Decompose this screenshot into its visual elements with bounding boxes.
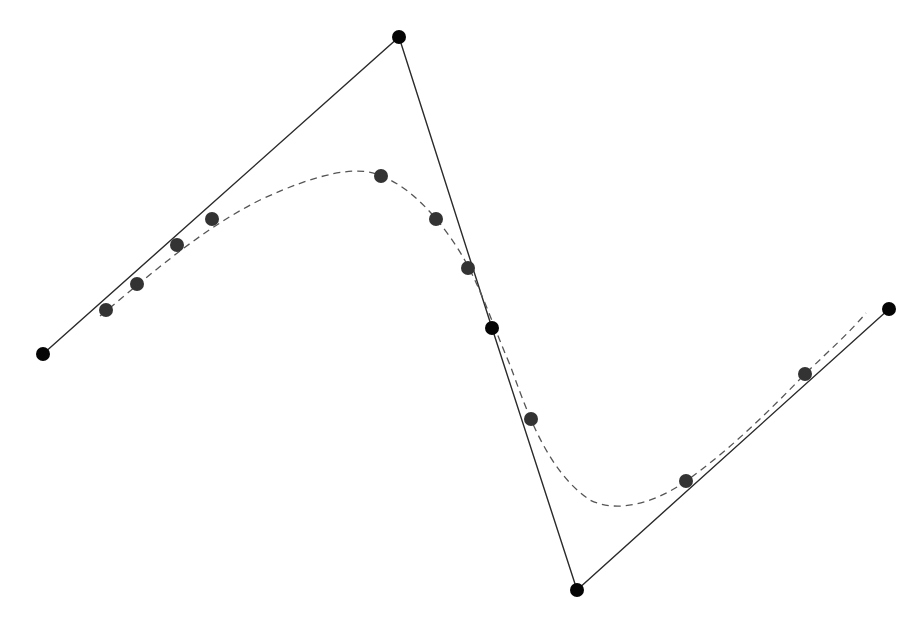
sample-point bbox=[798, 367, 812, 381]
sample-point bbox=[170, 238, 184, 252]
control-point bbox=[392, 30, 406, 44]
control-point bbox=[485, 321, 499, 335]
sample-point bbox=[461, 261, 475, 275]
control-point bbox=[570, 583, 584, 597]
control-points bbox=[36, 30, 896, 597]
control-point bbox=[36, 347, 50, 361]
control-point bbox=[882, 302, 896, 316]
sample-point bbox=[205, 212, 219, 226]
control-polygon bbox=[43, 37, 889, 590]
spline-diagram bbox=[0, 0, 922, 624]
sample-point bbox=[374, 169, 388, 183]
sample-point bbox=[99, 303, 113, 317]
sample-point bbox=[429, 212, 443, 226]
sample-point bbox=[130, 277, 144, 291]
sample-point bbox=[679, 474, 693, 488]
sample-points bbox=[99, 169, 812, 488]
sample-point bbox=[524, 412, 538, 426]
